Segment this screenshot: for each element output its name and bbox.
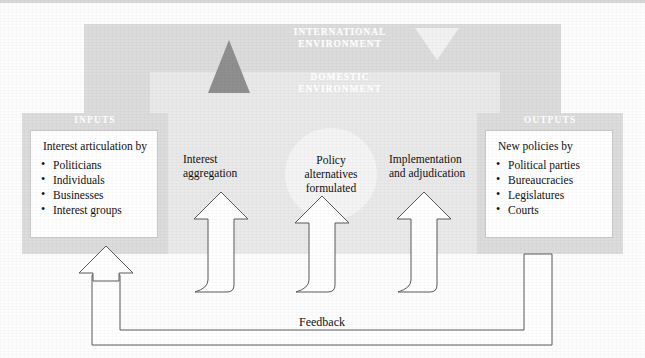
diagram-canvas: INTERNATIONAL ENVIRONMENT DOMESTIC ENVIR… <box>0 0 645 358</box>
feedback-label: Feedback <box>299 315 345 329</box>
implementation-adjudication-arrow-icon <box>397 192 451 292</box>
arrow-overlay: Feedback <box>0 0 645 358</box>
feedback-seam-mask <box>94 272 118 277</box>
policy-input-arrow-icon <box>295 196 349 292</box>
interest-aggregation-arrow-icon <box>194 192 248 292</box>
